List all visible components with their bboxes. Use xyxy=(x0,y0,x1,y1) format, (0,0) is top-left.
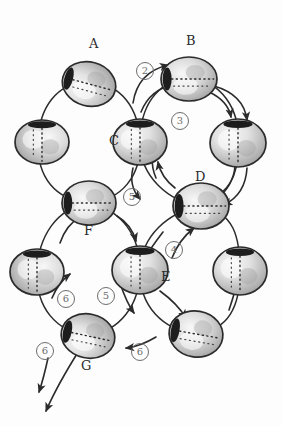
torus-node-u3 xyxy=(10,249,64,295)
torus-node-A xyxy=(57,56,121,112)
step-marker-5b: 5 xyxy=(97,287,115,305)
step-marker-5a: 5 xyxy=(123,188,141,206)
node-label-E: E xyxy=(161,270,171,283)
torus-node-C xyxy=(113,119,167,165)
torus-node-u4 xyxy=(213,247,267,295)
node-label-C: C xyxy=(109,134,119,147)
step-marker-3: 3 xyxy=(171,112,189,130)
node-label-G: G xyxy=(81,359,91,372)
step-marker-2: 2 xyxy=(136,62,154,80)
torus-node-E xyxy=(112,246,168,294)
step-marker-6a: 6 xyxy=(57,290,75,308)
figure-canvas: A B C D E F G 2 3 5 4 6 5 6 6 xyxy=(0,0,282,426)
torus-node-F xyxy=(62,181,116,225)
torus-node-u2 xyxy=(210,119,266,167)
torus-node-G xyxy=(57,309,119,363)
step-marker-6b: 6 xyxy=(131,343,149,361)
torus-node-D xyxy=(173,183,229,229)
node-label-A: A xyxy=(89,37,98,50)
node-label-B: B xyxy=(186,34,196,47)
torus-node-u5 xyxy=(165,307,226,362)
arrow-b-to-right-1 xyxy=(209,92,231,117)
node-label-D: D xyxy=(195,170,205,183)
node-label-F: F xyxy=(84,224,93,237)
step-marker-4: 4 xyxy=(165,241,183,259)
arrow-out-left xyxy=(39,358,48,392)
torus-node-u1 xyxy=(15,120,69,164)
torus-node-B xyxy=(161,57,217,101)
arrow-d-to-c xyxy=(158,162,175,188)
step-marker-6c: 6 xyxy=(36,342,54,360)
arrow-out-right xyxy=(46,349,80,411)
